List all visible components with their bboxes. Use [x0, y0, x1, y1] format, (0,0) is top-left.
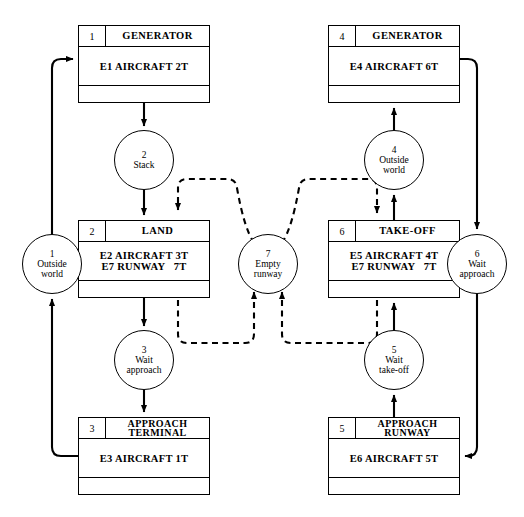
activity-number: 6 [329, 221, 356, 241]
activity-title: TAKE-OFF [356, 221, 459, 241]
queue-outside-world-4[interactable]: 4 Outside world [364, 130, 424, 190]
activity-header: 2 LAND [79, 221, 209, 242]
conn-land2-to-emptyrunway7 [178, 292, 254, 343]
queue-number: 5 [392, 345, 397, 355]
queue-label: Outside world [379, 155, 409, 175]
activity-number: 3 [79, 418, 106, 438]
queue-number: 2 [142, 150, 147, 160]
queue-label: Outside world [37, 259, 67, 279]
activity-title: APPROACH TERMINAL [106, 418, 209, 438]
activity-number: 1 [79, 26, 106, 46]
activity-header: 4 GENERATOR [329, 26, 459, 47]
queue-label: Wait approach [127, 355, 162, 375]
activity-line: E6 AIRCRAFT 5T [350, 453, 439, 464]
queue-wait-approach-3[interactable]: 3 Wait approach [114, 330, 174, 390]
queue-label: Stack [133, 160, 154, 170]
activity-line: E1 AIRCRAFT 2T [100, 61, 189, 72]
queue-number: 7 [266, 249, 271, 259]
activity-takeoff-6[interactable]: 6 TAKE-OFF E5 AIRCRAFT 4T E7 RUNWAY 7T [328, 220, 460, 298]
activity-body: E1 AIRCRAFT 2T [79, 47, 209, 86]
queue-label: Wait approach [460, 259, 495, 279]
conn-approachterminal3-to-outsideworld1 [52, 299, 78, 456]
activity-header: 5 APPROACH RUNWAY [329, 418, 459, 439]
conn-outsideworld1-to-generator1 [52, 59, 73, 234]
activity-generator-4[interactable]: 4 GENERATOR E4 AIRCRAFT 6T [328, 25, 460, 103]
conn-takeoff6-to-emptyrunway7 [282, 292, 377, 343]
queue-number: 1 [50, 249, 55, 259]
activity-line: E4 AIRCRAFT 6T [350, 61, 439, 72]
activity-title: LAND [106, 221, 209, 241]
activity-title: GENERATOR [356, 26, 459, 46]
queue-number: 4 [392, 145, 397, 155]
queue-outside-world-1[interactable]: 1 Outside world [22, 234, 82, 294]
activity-land-2[interactable]: 2 LAND E2 AIRCRAFT 3T E7 RUNWAY 7T [78, 220, 210, 298]
activity-line: E7 RUNWAY 7T [351, 261, 436, 272]
queue-number: 3 [142, 345, 147, 355]
queue-number: 6 [475, 249, 480, 259]
queue-label: Wait take-off [379, 355, 409, 375]
activity-cycle-diagram: 1 GENERATOR E1 AIRCRAFT 2T 4 GENERATOR E… [0, 0, 524, 517]
activity-body: E4 AIRCRAFT 6T [329, 47, 459, 86]
activity-approach-runway-5[interactable]: 5 APPROACH RUNWAY E6 AIRCRAFT 5T [328, 417, 460, 495]
activity-title: GENERATOR [106, 26, 209, 46]
activity-generator-1[interactable]: 1 GENERATOR E1 AIRCRAFT 2T [78, 25, 210, 103]
activity-number: 2 [79, 221, 106, 241]
queue-stack-2[interactable]: 2 Stack [114, 130, 174, 190]
activity-header: 1 GENERATOR [79, 26, 209, 47]
queue-label: Empty runway [254, 259, 283, 279]
activity-header: 3 APPROACH TERMINAL [79, 418, 209, 439]
activity-number: 5 [329, 418, 356, 438]
activity-line: E5 AIRCRAFT 4T [350, 250, 439, 261]
queue-wait-approach-6[interactable]: 6 Wait approach [447, 234, 507, 294]
queue-empty-runway-7[interactable]: 7 Empty runway [238, 234, 298, 294]
activity-body: E6 AIRCRAFT 5T [329, 439, 459, 478]
activity-approach-terminal-3[interactable]: 3 APPROACH TERMINAL E3 AIRCRAFT 1T [78, 417, 210, 495]
activity-line: E7 RUNWAY 7T [101, 261, 186, 272]
activity-body: E5 AIRCRAFT 4T E7 RUNWAY 7T [329, 242, 459, 281]
activity-line: E3 AIRCRAFT 1T [100, 453, 189, 464]
queue-wait-takeoff-5[interactable]: 5 Wait take-off [364, 330, 424, 390]
activity-title: APPROACH RUNWAY [356, 418, 459, 438]
activity-body: E3 AIRCRAFT 1T [79, 439, 209, 478]
activity-header: 6 TAKE-OFF [329, 221, 459, 242]
conn-waitapproach6-to-approachrunway5 [465, 294, 477, 456]
activity-body: E2 AIRCRAFT 3T E7 RUNWAY 7T [79, 242, 209, 281]
conn-generator4-to-waitapproach6 [460, 59, 477, 229]
activity-line: E2 AIRCRAFT 3T [100, 250, 189, 261]
activity-number: 4 [329, 26, 356, 46]
